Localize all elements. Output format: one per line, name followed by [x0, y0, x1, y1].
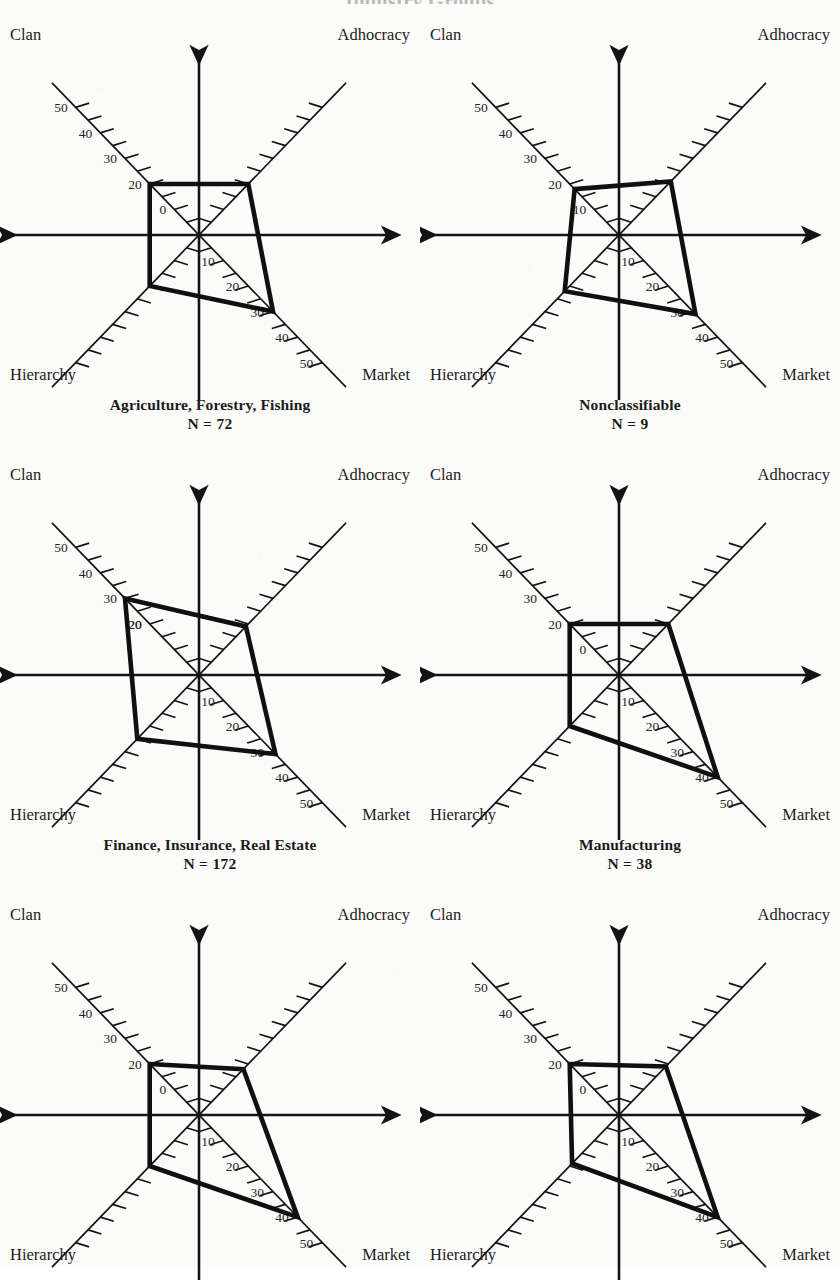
axis-label-clan: Clan: [430, 905, 461, 924]
clan-inner-tick-label: 20: [128, 617, 142, 632]
axis-tick: [125, 312, 139, 316]
chart-title: Nonclassifiable: [420, 396, 840, 414]
axis-label-market: Market: [362, 1245, 410, 1264]
axis-tick: [704, 1009, 718, 1013]
axis-tick: [272, 324, 286, 328]
axis-tick: [508, 116, 522, 120]
market-tick-label: 20: [226, 279, 240, 294]
axis-label-market: Market: [782, 365, 830, 384]
axis-tick: [174, 1141, 188, 1145]
axis-label-market: Market: [362, 365, 410, 384]
axis-tick: [113, 581, 127, 585]
axis-label-hierarchy: Hierarchy: [10, 365, 77, 384]
axis-tick: [113, 1204, 127, 1208]
axis-tick: [272, 581, 286, 585]
chart-title: Manufacturing: [420, 836, 840, 854]
axis-tick: [235, 1060, 249, 1064]
market-tick-label: 50: [720, 356, 734, 371]
market-tick-label: 50: [300, 356, 314, 371]
axis-label-hierarchy: Hierarchy: [430, 805, 497, 824]
axis-tick: [582, 1073, 596, 1077]
axis-tick: [88, 556, 102, 560]
axis-tick: [137, 1179, 151, 1183]
axis-tick: [582, 193, 596, 197]
market-tick-label: 10: [621, 254, 635, 269]
axis-tick: [137, 1047, 151, 1051]
axis-tick: [125, 1192, 139, 1196]
clan-tick-label: 50: [474, 540, 488, 555]
chart-title: Agriculture, Forestry, Fishing: [0, 396, 420, 414]
axis-tick: [533, 764, 547, 768]
radar-chart-panel: 5040302001020304050ClanAdhocracyHierarch…: [420, 458, 840, 898]
axis-label-clan: Clan: [10, 25, 41, 44]
market-tick-label: 50: [720, 1236, 734, 1251]
axis-tick: [174, 701, 188, 705]
radar-plot: 5040302001020304050ClanAdhocracyHierarch…: [420, 898, 840, 1280]
axis-tick: [667, 1047, 681, 1051]
axis-tick: [113, 1021, 127, 1025]
market-tick-label: 20: [646, 1159, 660, 1174]
clan-tick-label: 30: [103, 591, 117, 606]
axis-tick: [508, 1230, 522, 1234]
axis-tick: [88, 996, 102, 1000]
market-tick-label: 10: [201, 254, 215, 269]
clan-inner-tick-label: 0: [580, 642, 587, 657]
market-tick-label: 20: [226, 719, 240, 734]
axis-tick: [692, 324, 706, 328]
axis-tick: [247, 1047, 261, 1051]
axis-tick: [680, 154, 694, 158]
clan-tick-label: 20: [548, 177, 562, 192]
axis-tick: [125, 1034, 139, 1038]
axis-tick: [643, 273, 657, 277]
axis-tick: [76, 983, 90, 987]
market-tick-label: 10: [201, 1134, 215, 1149]
axis-tick: [137, 167, 151, 171]
axis-tick: [174, 1085, 188, 1089]
clan-tick-label: 20: [548, 1057, 562, 1072]
axis-tick: [630, 205, 644, 209]
axis-tick: [557, 1179, 571, 1183]
axis-tick: [520, 1009, 534, 1013]
clan-inner-tick-label: 0: [160, 202, 167, 217]
axis-tick: [88, 1230, 102, 1234]
axis-label-adhocracy: Adhocracy: [338, 25, 411, 44]
axis-tick: [284, 1009, 298, 1013]
axis-tick: [100, 1009, 114, 1013]
axis-label-market: Market: [782, 1245, 830, 1264]
clan-tick-label: 40: [499, 126, 513, 141]
axis-tick: [272, 1021, 286, 1025]
axis-tick: [667, 607, 681, 611]
chart-caption: NonclassifiableN = 9: [420, 396, 840, 434]
market-tick-label: 20: [646, 279, 660, 294]
axis-tick: [210, 1085, 224, 1089]
axis-tick: [125, 752, 139, 756]
axis-tick: [247, 167, 261, 171]
axis-label-market: Market: [362, 805, 410, 824]
axis-tick: [100, 1217, 114, 1221]
axis-label-adhocracy: Adhocracy: [338, 905, 411, 924]
axis-tick: [520, 129, 534, 133]
market-tick-label: 50: [300, 796, 314, 811]
axis-label-hierarchy: Hierarchy: [10, 1245, 77, 1264]
axis-tick: [717, 1230, 731, 1234]
axis-tick: [125, 154, 139, 158]
axis-tick: [655, 1060, 669, 1064]
axis-tick: [545, 752, 559, 756]
axis-tick: [594, 205, 608, 209]
axis-label-adhocracy: Adhocracy: [758, 25, 831, 44]
axis-tick: [247, 299, 261, 303]
axis-tick: [545, 594, 559, 598]
axis-tick: [692, 581, 706, 585]
axis-label-clan: Clan: [10, 905, 41, 924]
axis-label-adhocracy: Adhocracy: [338, 465, 411, 484]
axis-tick: [223, 713, 237, 717]
axis-tick: [717, 790, 731, 794]
axis-tick: [704, 569, 718, 573]
axis-tick: [76, 543, 90, 547]
chart-sample-size: N = 172: [0, 855, 420, 873]
axis-tick: [88, 350, 102, 354]
axis-tick: [557, 167, 571, 171]
axis-tick: [496, 983, 510, 987]
axis-tick: [643, 193, 657, 197]
